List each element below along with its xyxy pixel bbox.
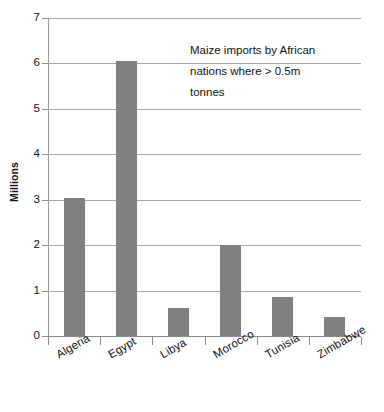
x-tick-2 (152, 337, 153, 345)
chart-title-line-2: nations where > 0.5m (190, 61, 370, 82)
bar-egypt[interactable] (116, 61, 137, 336)
chart-title-line-3: tonnes (190, 82, 370, 103)
bar-tunisia[interactable] (272, 297, 293, 336)
y-tick-label-2: 2 (14, 239, 40, 251)
chart-title-line-1: Maize imports by African (190, 40, 370, 61)
y-tick-label-6: 6 (14, 57, 40, 69)
y-tick-label-1: 1 (14, 285, 40, 297)
y-tick-label-4: 4 (14, 148, 40, 160)
x-tick-0 (48, 337, 49, 345)
bar-libya[interactable] (168, 308, 189, 336)
x-tick-3 (205, 337, 206, 345)
x-label-egypt: Egypt (106, 335, 138, 360)
y-tick-label-7: 7 (14, 12, 40, 24)
bar-chart: Millions 01234567 AlgeriaEgyptLibyaMoroc… (0, 0, 384, 412)
y-tick-label-3: 3 (14, 194, 40, 206)
x-tick-1 (100, 337, 101, 345)
x-label-libya: Libya (158, 336, 188, 360)
chart-title-annotation: Maize imports by African nations where >… (190, 40, 370, 103)
y-tick-label-0: 0 (14, 330, 40, 342)
x-tick-end (361, 337, 362, 345)
bar-morocco[interactable] (220, 245, 241, 336)
bar-algeria[interactable] (64, 198, 85, 336)
x-tick-4 (257, 337, 258, 345)
y-tick-label-5: 5 (14, 103, 40, 115)
x-tick-5 (309, 337, 310, 345)
